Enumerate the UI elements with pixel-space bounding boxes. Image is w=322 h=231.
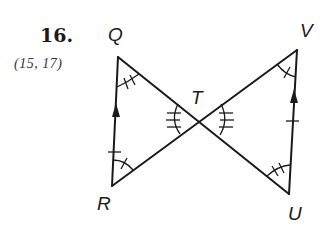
arrow-VU [290,89,298,103]
angle-arc-U [267,165,290,176]
vertex-label-T: T [191,87,203,109]
segment-VR [112,50,297,186]
angle-arc-V [277,64,296,77]
geometry-diagram [0,0,322,231]
vertex-label-V: V [300,20,313,42]
vertex-label-R: R [97,193,111,215]
segment-QU [118,57,289,194]
segment-QR [112,57,118,186]
vertex-label-U: U [288,203,302,225]
angle-arc-QTR [174,104,180,134]
arrow-QR [112,103,120,117]
angle-arc-Q [117,74,139,87]
vertex-label-Q: Q [108,24,123,46]
segment-VU [289,50,297,194]
